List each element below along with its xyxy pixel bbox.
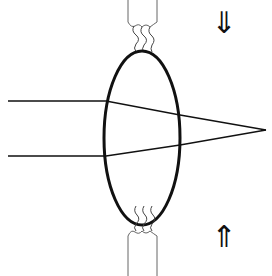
bottom-zonule-fibers [135, 206, 155, 231]
top-zonule-fibers [133, 26, 154, 52]
ray-upper [8, 101, 266, 130]
lens [104, 51, 180, 225]
arrow-up-icon: ⇑ [209, 222, 239, 252]
light-rays [8, 101, 266, 156]
diagram-canvas: ⇓ ⇑ [0, 0, 272, 276]
top-ciliary-stalk [128, 0, 157, 27]
ray-lower [8, 130, 266, 156]
bottom-ciliary-stalk [128, 231, 157, 276]
arrow-down-icon: ⇓ [209, 8, 239, 38]
